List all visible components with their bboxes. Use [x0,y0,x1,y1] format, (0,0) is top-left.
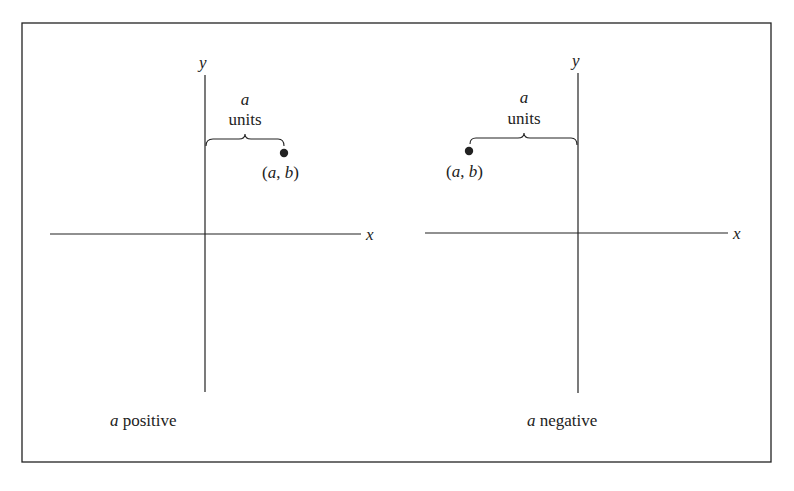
left-distance-brace [206,134,284,146]
right-point [465,147,473,155]
right-distance-variable: a [520,88,529,107]
left-y-axis-label: y [197,53,207,72]
left-distance-variable: a [241,90,250,109]
figure-frame [22,23,771,462]
left-caption: a positive [110,411,177,430]
right-y-axis-label: y [570,51,580,70]
right-distance-brace [470,133,577,145]
right-x-axis-label: x [732,224,741,243]
left-point [280,149,288,157]
right-panel: x y a units (a, b) a negative [425,51,741,430]
coordinate-diagram: x y a units (a, b) a positive x y a unit… [0,0,794,491]
right-caption-text: a negative [527,411,597,430]
left-x-axis-label: x [365,225,374,244]
left-panel: x y a units (a, b) a positive [50,53,374,430]
left-distance-unit: units [228,110,261,129]
right-distance-unit: units [507,109,540,128]
left-point-label: (a, b) [262,163,299,182]
right-point-label: (a, b) [446,162,483,181]
